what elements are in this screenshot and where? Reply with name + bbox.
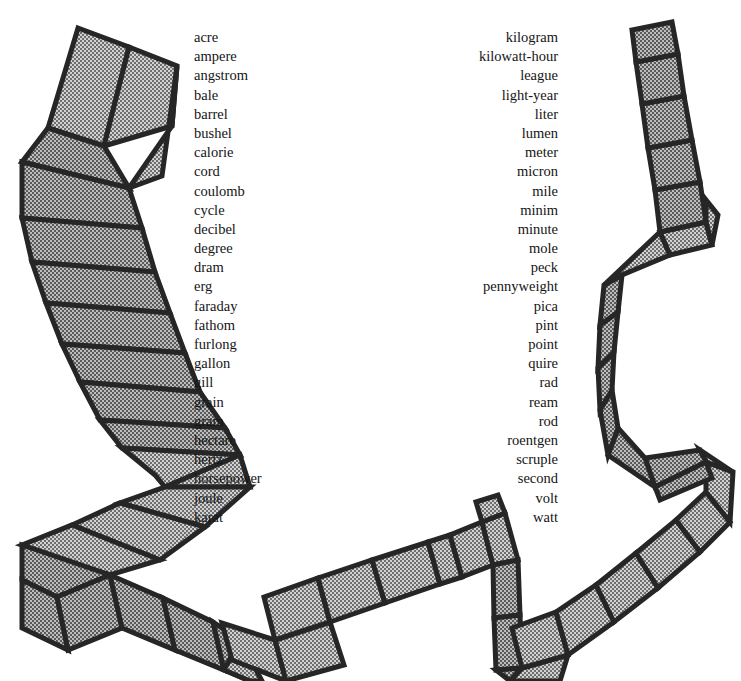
unit-word: minute bbox=[479, 220, 558, 239]
units-word-list-page: acreampereangstrombalebarrelbushelcalori… bbox=[0, 0, 741, 681]
unit-word: joule bbox=[194, 489, 262, 508]
unit-word: mole bbox=[479, 239, 558, 258]
segmented-path-border bbox=[0, 0, 741, 681]
unit-word: bushel bbox=[194, 124, 262, 143]
ribbon-segment bbox=[493, 560, 520, 618]
unit-word: rad bbox=[479, 373, 558, 392]
unit-word: roentgen bbox=[479, 431, 558, 450]
unit-word: micron bbox=[479, 162, 558, 181]
unit-word: coulomb bbox=[194, 182, 262, 201]
unit-word: cycle bbox=[194, 201, 262, 220]
unit-word: acre bbox=[194, 28, 262, 47]
unit-word: peck bbox=[479, 258, 558, 277]
unit-word: angstrom bbox=[194, 66, 262, 85]
unit-word: pennyweight bbox=[479, 277, 558, 296]
unit-word: rod bbox=[479, 412, 558, 431]
unit-word: watt bbox=[479, 508, 558, 527]
ribbon-segment bbox=[604, 232, 670, 285]
unit-word: ream bbox=[479, 393, 558, 412]
unit-word: cord bbox=[194, 162, 262, 181]
unit-word: point bbox=[479, 335, 558, 354]
unit-word: gill bbox=[194, 373, 262, 392]
unit-word: meter bbox=[479, 143, 558, 162]
unit-word: degree bbox=[194, 239, 262, 258]
unit-word: pint bbox=[479, 316, 558, 335]
unit-word: decibel bbox=[194, 220, 262, 239]
unit-word: gram bbox=[194, 412, 262, 431]
unit-word: light-year bbox=[479, 86, 558, 105]
unit-word: fathom bbox=[194, 316, 262, 335]
units-right-column: kilogramkilowatt-hourleaguelight-yearlit… bbox=[479, 28, 558, 527]
unit-word: lumen bbox=[479, 124, 558, 143]
ribbon-segment bbox=[632, 22, 678, 62]
unit-word: league bbox=[479, 66, 558, 85]
unit-word: furlong bbox=[194, 335, 262, 354]
units-left-column: acreampereangstrombalebarrelbushelcalori… bbox=[194, 28, 262, 527]
unit-word: ampere bbox=[194, 47, 262, 66]
unit-word: horsepower bbox=[194, 469, 262, 488]
unit-word: liter bbox=[479, 105, 558, 124]
unit-word: minim bbox=[479, 201, 558, 220]
unit-word: kilowatt-hour bbox=[479, 47, 558, 66]
unit-word: erg bbox=[194, 277, 262, 296]
unit-word: pica bbox=[479, 297, 558, 316]
unit-word: hertz bbox=[194, 450, 262, 469]
unit-word: gallon bbox=[194, 354, 262, 373]
unit-word: mile bbox=[479, 182, 558, 201]
unit-word: calorie bbox=[194, 143, 262, 162]
ribbon-body bbox=[22, 22, 733, 681]
unit-word: faraday bbox=[194, 297, 262, 316]
unit-word: dram bbox=[194, 258, 262, 277]
unit-word: barrel bbox=[194, 105, 262, 124]
unit-word: hectare bbox=[194, 431, 262, 450]
unit-word: second bbox=[479, 469, 558, 488]
unit-word: kilogram bbox=[479, 28, 558, 47]
unit-word: bale bbox=[194, 86, 262, 105]
unit-word: volt bbox=[479, 489, 558, 508]
unit-word: quire bbox=[479, 354, 558, 373]
unit-word: scruple bbox=[479, 450, 558, 469]
unit-word: grain bbox=[194, 393, 262, 412]
unit-word: karat bbox=[194, 508, 262, 527]
